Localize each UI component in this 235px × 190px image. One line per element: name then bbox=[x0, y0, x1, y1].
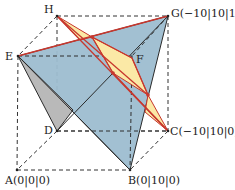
label-F: F bbox=[136, 53, 144, 66]
label-E: E bbox=[5, 50, 13, 63]
label-A: A(0|0|0) bbox=[4, 174, 50, 188]
label-D: D bbox=[44, 124, 53, 137]
yellow-triangle-bottom bbox=[145, 95, 168, 131]
label-H: H bbox=[44, 3, 54, 16]
yellow-triangle-top bbox=[57, 16, 92, 40]
label-B: B(0|10|0) bbox=[128, 174, 180, 188]
label-C: C(−10|10|0) bbox=[170, 125, 235, 139]
label-G: G(−10|10|10) bbox=[171, 7, 235, 21]
cube-diagram: H G(−10|10|10) E F D C(−10|10|0) A(0|0|0… bbox=[0, 0, 235, 190]
